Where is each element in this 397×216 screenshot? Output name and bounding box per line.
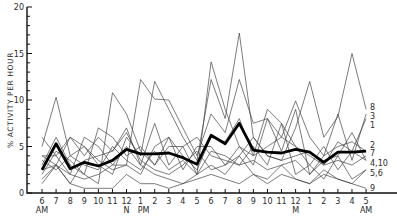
x-tick-label: 5 (194, 197, 199, 206)
x-tick-label: 8 (68, 197, 73, 206)
x-tick-label: 6 (209, 197, 214, 206)
activity-line-chart: % ACTIVITY PER HOUR 05101520 6AM78910111… (0, 0, 397, 216)
series-end-label: 7 (370, 149, 375, 158)
series-end-labels: 831274,105,69 (370, 103, 388, 193)
x-tick-label: 4 (349, 197, 354, 206)
y-tick-label: 15 (14, 50, 24, 59)
x-tick-label: 12 (121, 197, 131, 206)
x-tick-label: 11 (107, 197, 117, 206)
x-tick-label: 5 (364, 197, 369, 206)
x-sublabel: M (292, 206, 299, 215)
y-tick-label: 5 (19, 143, 24, 152)
x-sublabel: N (124, 206, 130, 215)
x-tick-label: 8 (237, 197, 242, 206)
series-end-label: 1 (370, 121, 375, 130)
x-tick-label: 7 (223, 197, 228, 206)
y-tick-label: 10 (14, 96, 24, 105)
x-tick-label: 12 (291, 197, 301, 206)
x-sublabel: AM (36, 206, 48, 215)
x-tick-label: 10 (262, 197, 272, 206)
series-line-10 (42, 137, 366, 174)
y-axis-ticks: 05101520 (14, 3, 32, 198)
x-tick-label: 10 (93, 197, 103, 206)
x-tick-label: 9 (251, 197, 256, 206)
x-tick-label: 2 (152, 197, 157, 206)
x-tick-label: 6 (39, 197, 44, 206)
x-tick-label: 3 (166, 197, 171, 206)
y-tick-label: 0 (19, 189, 24, 198)
y-tick-label: 20 (14, 3, 24, 12)
series-end-label: 9 (370, 184, 375, 193)
x-tick-label: 1 (138, 197, 143, 206)
x-tick-label: 9 (82, 197, 87, 206)
x-tick-label: 3 (335, 197, 340, 206)
series-end-label: 4,10 (370, 159, 388, 168)
x-tick-label: 2 (321, 197, 326, 206)
x-tick-label: 7 (54, 197, 59, 206)
x-sublabel: PM (138, 206, 150, 215)
series-end-label: 5,6 (370, 169, 383, 178)
x-tick-label: 1 (307, 197, 312, 206)
series-end-label: 3 (370, 112, 375, 121)
x-sublabel: AM (360, 206, 372, 215)
x-tick-label: 4 (180, 197, 185, 206)
x-tick-label: 11 (276, 197, 286, 206)
